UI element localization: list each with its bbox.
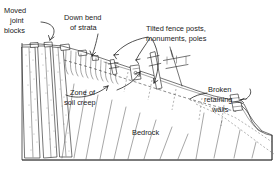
label-line: Broken [208, 85, 231, 94]
hillslope-ground-surface [22, 44, 272, 135]
label-line: joint [9, 16, 24, 25]
label-down-bend-of-strata: Down bend of strata [64, 13, 101, 32]
tilted-fence-post-1 [109, 59, 119, 74]
moved-joint-blocks-group [30, 42, 99, 61]
label-line: blocks [4, 26, 25, 35]
soil-creep-block-diagram: Moved joint blocks Down bend of strata T… [0, 0, 279, 179]
label-bedrock: Bedrock [132, 128, 159, 137]
label-moved-joint-blocks: Moved joint blocks [4, 6, 26, 35]
label-zone-of-soil-creep: Zone of soil creep [64, 88, 96, 107]
label-line: Bedrock [132, 128, 159, 137]
label-line: Down bend [64, 13, 101, 22]
label-line: of strata [70, 23, 98, 32]
label-tilted-fence-posts: Tilted fence posts, monuments, poles [146, 24, 207, 43]
diagram-canvas: Moved joint blocks Down bend of strata T… [0, 0, 279, 179]
label-line: Moved [4, 6, 26, 15]
label-line: Tilted fence posts, [146, 24, 206, 33]
label-line: monuments, poles [146, 34, 207, 43]
creep-zone-base [64, 60, 274, 154]
tilted-fence-post-2 [148, 52, 163, 90]
label-line: walls [211, 105, 229, 114]
label-line: soil creep [64, 98, 96, 107]
label-line: retaining [204, 95, 232, 104]
label-line: Zone of [70, 88, 96, 97]
